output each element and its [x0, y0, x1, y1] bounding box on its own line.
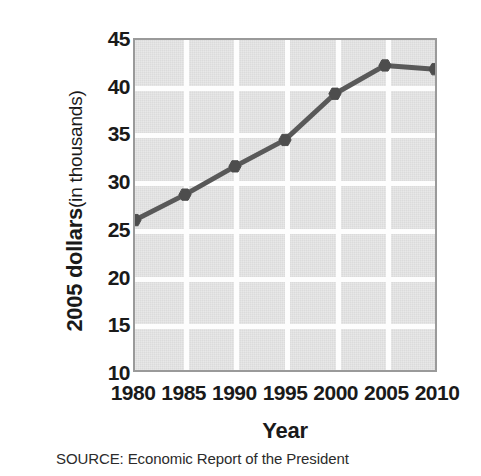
source-note: SOURCE: Economic Report of the President — [56, 450, 349, 467]
y-tick-label: 15 — [92, 314, 130, 335]
data-series-line — [135, 40, 435, 370]
y-tick-label: 40 — [92, 75, 130, 96]
line-chart-figure: 2005 dollars(in thousands) 4540353025201… — [0, 0, 481, 476]
data-point-marker — [379, 60, 391, 71]
data-point-marker — [279, 134, 291, 145]
y-axis-tick-labels: 4540353025201510 — [92, 30, 130, 382]
y-tick-label: 25 — [92, 218, 130, 239]
y-tick-label: 20 — [92, 266, 130, 287]
plot-area — [133, 38, 437, 372]
data-point-marker — [179, 189, 191, 200]
data-point-marker — [229, 161, 241, 172]
y-tick-label: 45 — [92, 28, 130, 49]
y-axis-title-sub: (in thousands) — [65, 90, 86, 208]
x-tick-label: 2010 — [402, 381, 472, 405]
y-tick-label: 10 — [92, 362, 130, 383]
x-axis-title: Year — [133, 418, 437, 444]
x-axis-tick-labels: 1980198519901995200020052010 — [0, 381, 481, 407]
y-axis-title: 2005 dollars(in thousands) — [62, 41, 88, 381]
data-point-marker — [329, 88, 341, 99]
y-tick-label: 35 — [92, 123, 130, 144]
y-tick-label: 30 — [92, 171, 130, 192]
y-axis-title-main: 2005 dollars — [62, 208, 87, 332]
data-point-marker — [429, 64, 435, 75]
